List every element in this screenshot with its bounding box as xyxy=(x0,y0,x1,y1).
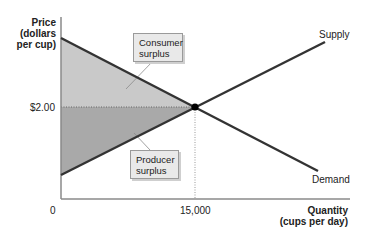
quantity-tick-label: 15,000 xyxy=(180,205,211,216)
y-axis-label-line: (dollars xyxy=(4,28,56,39)
callout-line: Consumer xyxy=(139,37,177,48)
x-axis-label-line: Quantity xyxy=(250,205,348,216)
x-axis-label: Quantity (cups per day) xyxy=(250,205,348,227)
y-axis-label-line: per cup) xyxy=(4,39,56,50)
y-axis-label-line: Price xyxy=(4,17,56,28)
producer-callout-leader xyxy=(134,133,150,150)
callout-line: surplus xyxy=(139,48,177,59)
producer-surplus-callout: Producer surplus xyxy=(130,150,179,179)
callout-line: surplus xyxy=(136,165,173,176)
x-axis-label-line: (cups per day) xyxy=(250,216,348,227)
origin-label: 0 xyxy=(50,205,56,216)
supply-label: Supply xyxy=(319,29,350,40)
price-tick-label: $2.00 xyxy=(10,102,55,113)
callout-line: Producer xyxy=(136,154,173,165)
equilibrium-point xyxy=(191,103,198,110)
demand-label: Demand xyxy=(312,174,350,185)
y-axis-label: Price (dollars per cup) xyxy=(4,17,56,50)
consumer-surplus-callout: Consumer surplus xyxy=(133,33,183,62)
